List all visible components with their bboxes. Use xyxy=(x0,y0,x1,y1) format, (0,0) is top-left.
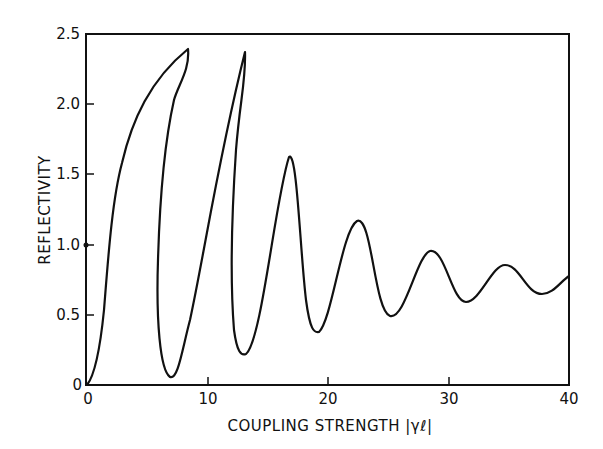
x-tick-label: 10 xyxy=(198,390,217,408)
y-tick-label: 1.5 xyxy=(56,165,80,183)
chart: 2.5 2.0 1.5 1.0 0.5 0 0 10 20 30 40 COUP… xyxy=(0,0,603,449)
x-tick-label: 40 xyxy=(559,390,578,408)
y-marker-dot xyxy=(84,243,89,248)
y-tick-label: 0 xyxy=(72,376,82,394)
x-tick-label: 0 xyxy=(83,390,93,408)
x-ticks xyxy=(208,377,449,385)
y-axis-title: REFLECTIVITY xyxy=(36,155,54,265)
x-axis-title: COUPLING STRENGTH |γℓ| xyxy=(228,417,433,435)
y-tick-label: 2.5 xyxy=(56,25,80,43)
reflectivity-curve xyxy=(87,49,569,385)
x-tick-label: 20 xyxy=(318,390,337,408)
y-tick-label: 0.5 xyxy=(56,306,80,324)
y-ticks xyxy=(86,104,94,315)
y-tick-label: 2.0 xyxy=(56,95,80,113)
y-tick-label: 1.0 xyxy=(56,236,80,254)
x-tick-label: 30 xyxy=(439,390,458,408)
